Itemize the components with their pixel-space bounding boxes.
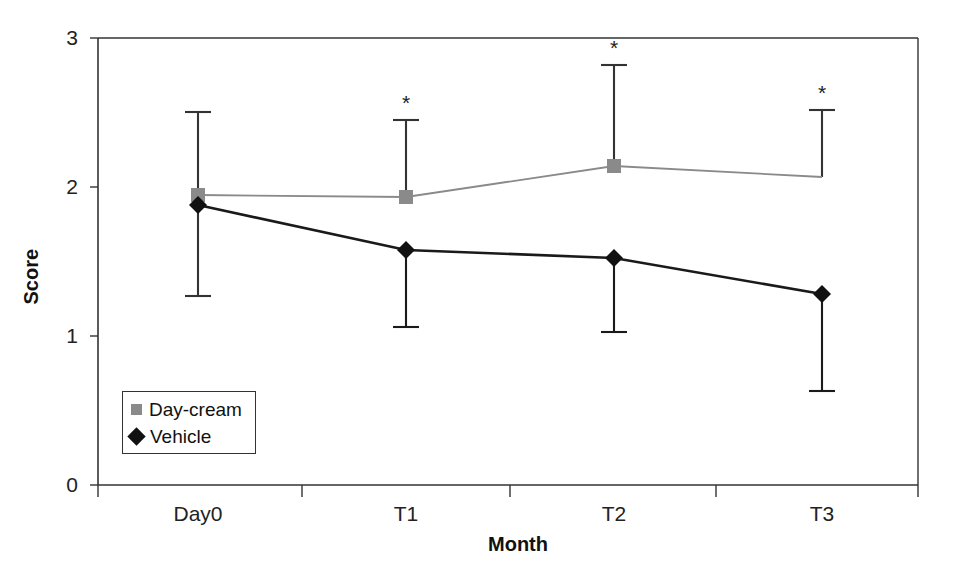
- y-tick-label-2: 2: [50, 175, 78, 199]
- legend-label-day-cream: Day-cream: [149, 399, 242, 421]
- legend-item-day-cream: Day-cream: [129, 396, 249, 423]
- significance-star-t1: *: [386, 92, 426, 113]
- y-tick-label-0: 0: [50, 473, 78, 497]
- x-axis-title: Month: [458, 533, 578, 556]
- series-line-vehicle: [198, 205, 822, 294]
- legend-square-marker-icon: [131, 404, 142, 415]
- significance-star-t3: *: [802, 82, 842, 103]
- y-tick-label-3: 3: [50, 26, 78, 50]
- significance-star-t2: *: [594, 37, 634, 58]
- x-tick-label-t1: T1: [356, 502, 456, 526]
- chart-legend: Day-cream Vehicle: [122, 391, 256, 454]
- legend-label-vehicle: Vehicle: [150, 426, 211, 448]
- y-axis-title: Score: [20, 225, 43, 305]
- x-axis-ticks: [98, 485, 918, 497]
- y-axis-ticks: [90, 38, 98, 485]
- x-tick-label-t2: T2: [564, 502, 664, 526]
- chart-figure: 3 2 1 0 Score Day0 T1 T2 T3 Month * * * …: [0, 0, 957, 574]
- x-tick-label-t3: T3: [772, 502, 872, 526]
- series-markers-vehicle: [189, 196, 831, 303]
- errorbar-vehicle: [393, 250, 835, 391]
- legend-item-vehicle: Vehicle: [129, 423, 249, 450]
- y-tick-label-1: 1: [50, 324, 78, 348]
- legend-diamond-marker-icon: [127, 427, 145, 445]
- errorbar-day-cream: [185, 65, 835, 296]
- series-line-day-cream: [198, 166, 822, 197]
- x-tick-label-day0: Day0: [148, 502, 248, 526]
